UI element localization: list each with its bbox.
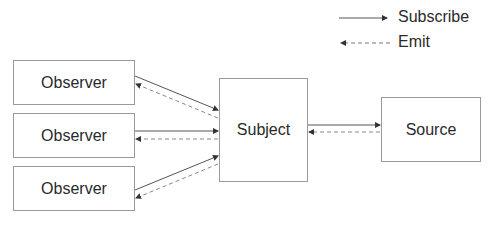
subject-label: Subject xyxy=(237,121,290,139)
emit-arrow-observer-3 xyxy=(136,164,218,198)
observer-label: Observer xyxy=(41,74,107,92)
subject-node: Subject xyxy=(219,78,308,182)
legend-subscribe-label: Subscribe xyxy=(398,8,469,26)
legend-emit-label: Emit xyxy=(398,33,430,51)
observer-node-3: Observer xyxy=(13,166,135,211)
source-label: Source xyxy=(406,121,457,139)
subscribe-arrow-observer-1 xyxy=(135,76,218,110)
observer-node-1: Observer xyxy=(13,60,135,105)
subscribe-arrow-observer-3 xyxy=(135,156,218,190)
emit-arrow-observer-1 xyxy=(136,84,218,118)
observer-node-2: Observer xyxy=(13,113,135,158)
source-node: Source xyxy=(381,97,481,162)
observer-label: Observer xyxy=(41,180,107,198)
observer-label: Observer xyxy=(41,127,107,145)
